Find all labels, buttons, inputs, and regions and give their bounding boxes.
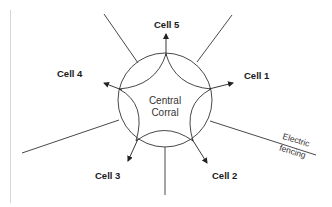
arc-2-3 xyxy=(136,131,193,142)
central-corral-label-line2: Corral xyxy=(140,107,190,119)
cell-3-label: Cell 3 xyxy=(95,170,120,181)
central-corral-label: Central Corral xyxy=(140,95,190,119)
fence-line-cell5-cell1 xyxy=(197,15,232,62)
arc-1-2 xyxy=(190,89,211,141)
arrow-cell-2-icon xyxy=(192,139,207,163)
arrow-cell-4-icon xyxy=(104,83,122,90)
cell-1-label: Cell 1 xyxy=(244,70,269,81)
central-corral-label-line1: Central xyxy=(140,95,190,107)
cell-2-label: Cell 2 xyxy=(212,170,237,181)
arc-4-5 xyxy=(119,54,166,89)
cell-4-label: Cell 4 xyxy=(57,68,82,79)
arrow-cell-1-icon xyxy=(209,83,233,89)
fence-line-cell4-cell5 xyxy=(104,14,138,63)
arc-3-4 xyxy=(119,89,139,141)
central-corral-diagram: Cell 5 Cell 1 Cell 2 Cell 3 Cell 4 Centr… xyxy=(0,0,332,207)
cell-5-label: Cell 5 xyxy=(154,19,179,30)
arrow-cell-3-icon xyxy=(128,139,138,161)
fence-line-cell3-cell4 xyxy=(22,120,119,153)
